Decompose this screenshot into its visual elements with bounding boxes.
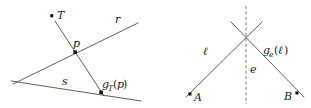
label-ell: ℓ <box>203 45 208 58</box>
label-A: A <box>193 91 202 104</box>
line-ge-ell <box>231 22 304 97</box>
point-B-marker <box>295 91 298 94</box>
point-T-marker <box>50 14 53 17</box>
label-B: B <box>283 90 292 103</box>
label-e: e <box>250 63 257 76</box>
label-gTp-close-paren: ) <box>123 78 127 91</box>
point-A-marker <box>188 92 191 95</box>
label-r: r <box>115 13 121 26</box>
figure-canvas: T r p s g T ( p ) <box>0 0 311 108</box>
label-ge-ell: g e ( ℓ ) <box>263 44 288 59</box>
label-gTp: g T ( p ) <box>102 78 127 93</box>
right-panel: ℓ e A B g e ( ℓ ) <box>186 6 304 104</box>
label-ge-ell-close-paren: ) <box>284 44 288 57</box>
label-p: p <box>73 37 80 50</box>
label-T: T <box>57 9 66 22</box>
point-gTp-marker <box>99 91 103 95</box>
label-ge-ell-arg: ℓ <box>278 44 283 57</box>
geometry-figure: T r p s g T ( p ) <box>0 0 311 108</box>
left-panel: T r p s g T ( p ) <box>11 9 141 101</box>
point-p-marker <box>73 50 77 54</box>
line-ell <box>186 22 262 97</box>
label-s: s <box>62 75 68 88</box>
